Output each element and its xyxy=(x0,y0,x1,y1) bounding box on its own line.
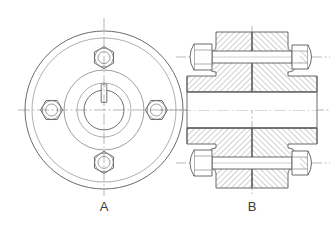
view-label-b: B xyxy=(248,199,257,214)
right-hub-barrel-outline-upper xyxy=(252,92,317,110)
bolt-lower-hex-head xyxy=(194,150,212,176)
bolt-upper-nut-hatch xyxy=(300,51,308,63)
keyway-hatch-fill xyxy=(101,84,107,90)
bolt-upper-nut-end xyxy=(308,45,312,69)
bolt-lower-head-round xyxy=(190,150,194,176)
bolt-upper-head-round xyxy=(190,44,194,70)
bolt-upper-hex-head xyxy=(194,44,212,70)
section-view xyxy=(160,26,330,194)
left-hub-barrel-outline-upper xyxy=(187,92,252,110)
drawing-svg: A B xyxy=(0,0,330,226)
bolt-lower-nut-end xyxy=(308,151,312,175)
technical-drawing-canvas: A B xyxy=(0,0,330,226)
bolt-lower-nut-hatch xyxy=(300,157,308,169)
front-view xyxy=(18,18,190,196)
view-label-a: A xyxy=(100,199,109,214)
